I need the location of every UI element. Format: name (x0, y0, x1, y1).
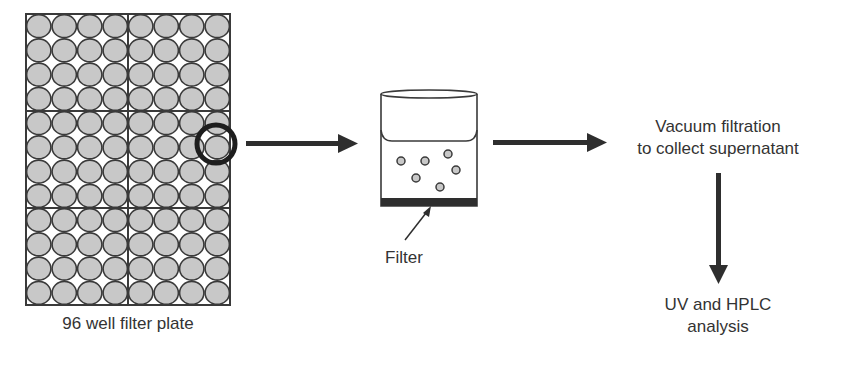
vacuum-filtration-label-line1: Vacuum filtration (608, 116, 828, 137)
well (129, 136, 153, 159)
well (78, 281, 102, 304)
well (180, 160, 204, 183)
well (27, 63, 51, 86)
well (205, 15, 229, 38)
well (129, 160, 153, 183)
well (154, 112, 178, 135)
well (205, 39, 229, 62)
well (103, 257, 127, 280)
well (27, 39, 51, 62)
well (103, 87, 127, 110)
well (154, 233, 178, 256)
well (180, 87, 204, 110)
well (52, 184, 76, 207)
arrow-beaker-to-vacuum (493, 133, 607, 152)
well (52, 39, 76, 62)
well (27, 160, 51, 183)
well (52, 233, 76, 256)
well (27, 233, 51, 256)
well (78, 112, 102, 135)
well (154, 39, 178, 62)
filter-membrane (381, 198, 477, 206)
well (78, 209, 102, 232)
well (154, 136, 178, 159)
plate-label: 96 well filter plate (28, 313, 228, 334)
well (78, 136, 102, 159)
arrow-plate-to-beaker (246, 134, 358, 153)
well (52, 209, 76, 232)
well (205, 63, 229, 86)
well (27, 87, 51, 110)
well (103, 63, 127, 86)
well (27, 209, 51, 232)
well (78, 233, 102, 256)
well (103, 281, 127, 304)
particle (421, 157, 429, 165)
well (78, 160, 102, 183)
well (52, 15, 76, 38)
vacuum-filtration-label-line2: to collect supernatant (608, 138, 828, 159)
well (180, 209, 204, 232)
well (52, 160, 76, 183)
well (27, 184, 51, 207)
well (103, 112, 127, 135)
well (103, 136, 127, 159)
well (154, 184, 178, 207)
well (27, 15, 51, 38)
well-plate (26, 14, 235, 305)
well (129, 184, 153, 207)
well (103, 39, 127, 62)
analysis-label-line1: UV and HPLC (638, 294, 798, 315)
well (205, 87, 229, 110)
beaker (381, 90, 477, 240)
well (52, 112, 76, 135)
well (129, 15, 153, 38)
particle (412, 174, 420, 182)
well (78, 87, 102, 110)
well (180, 63, 204, 86)
well (78, 39, 102, 62)
well (27, 136, 51, 159)
well (129, 112, 153, 135)
well (103, 160, 127, 183)
well (154, 257, 178, 280)
particle (436, 183, 444, 191)
well (103, 209, 127, 232)
well (180, 184, 204, 207)
well (103, 184, 127, 207)
well (129, 281, 153, 304)
well (103, 233, 127, 256)
well (27, 257, 51, 280)
well (78, 257, 102, 280)
well (205, 281, 229, 304)
well (129, 87, 153, 110)
well (78, 184, 102, 207)
well (180, 39, 204, 62)
well (154, 160, 178, 183)
well (129, 209, 153, 232)
analysis-label-line2: analysis (638, 316, 798, 337)
well (78, 15, 102, 38)
well (129, 233, 153, 256)
well (52, 63, 76, 86)
well (205, 209, 229, 232)
well (154, 15, 178, 38)
well (154, 63, 178, 86)
well (205, 136, 229, 159)
well (129, 257, 153, 280)
arrow-vacuum-to-analysis (709, 173, 728, 284)
well (205, 257, 229, 280)
well (27, 281, 51, 304)
well (154, 87, 178, 110)
particle (397, 157, 405, 165)
well (52, 257, 76, 280)
well (205, 184, 229, 207)
well (52, 136, 76, 159)
beaker-wall (381, 94, 477, 206)
well (52, 281, 76, 304)
well (78, 63, 102, 86)
well (154, 209, 178, 232)
well (180, 257, 204, 280)
well (154, 281, 178, 304)
well (129, 39, 153, 62)
